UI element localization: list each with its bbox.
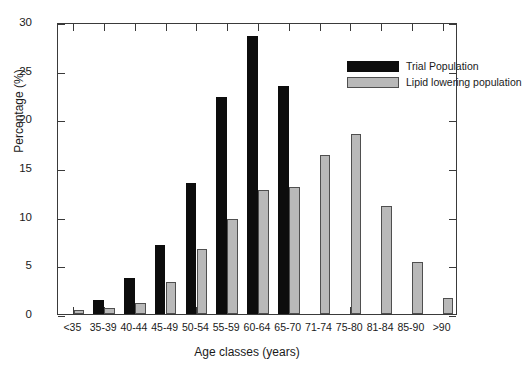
bar [227,219,238,314]
bar-group [186,24,208,314]
y-axis-tick-label: 5 [0,260,32,272]
bar-group [93,24,115,314]
bar-group [216,24,238,314]
bar [278,86,289,314]
bar [320,155,331,314]
bar [258,190,269,314]
y-axis-tick-label: 10 [0,212,32,224]
bar [443,298,454,314]
bar [124,278,135,314]
legend-item: Trial Population [347,60,522,73]
y-axis-tick-label: 20 [0,114,32,126]
bar [104,308,115,314]
bar [155,245,166,314]
y-axis-tick-label: 15 [0,163,32,175]
y-axis-tick-right [449,316,456,317]
bar-group [247,24,269,314]
y-axis-tick [58,316,65,317]
bar [166,282,177,314]
bar [197,249,208,314]
plot-area: Trial PopulationLipid lowering populatio… [57,23,457,315]
bar [247,36,258,314]
y-axis-tick-label: 0 [0,309,32,321]
bar-group [63,24,85,314]
bar [93,300,104,314]
bar [351,134,362,314]
legend-item: Lipid lowering population [347,76,522,89]
legend-swatch-trial [347,61,399,72]
y-axis-tick-label: 30 [0,17,32,29]
bar-group [278,24,300,314]
bar [135,303,146,314]
bar [289,187,300,315]
legend-swatch-lipid [347,77,399,88]
bar [412,262,423,314]
legend-label: Trial Population [406,61,479,72]
legend: Trial PopulationLipid lowering populatio… [347,60,522,92]
bar [186,183,197,314]
bar [381,206,392,314]
x-axis-title: Age classes (years) [0,345,494,359]
bar-group [309,24,331,314]
bar-group [155,24,177,314]
bar-group [124,24,146,314]
y-axis-tick-label: 25 [0,66,32,78]
bar [216,97,227,314]
legend-label: Lipid lowering population [406,77,522,88]
bar [74,310,85,314]
x-axis-tick-label: >90 [412,322,472,333]
